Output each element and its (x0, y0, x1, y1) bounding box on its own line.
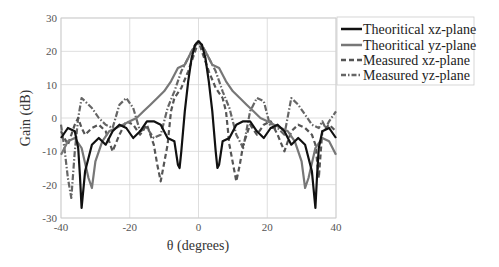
y-tick-label: 10 (46, 79, 58, 91)
x-tick-label: 40 (331, 221, 343, 233)
x-tick-label: 20 (262, 221, 274, 233)
y-tick-label: -10 (42, 145, 57, 157)
y-tick-labels: -30-20-100102030 (42, 12, 57, 224)
y-tick-label: 30 (46, 12, 58, 24)
x-tick-labels: -40-2002040 (54, 221, 342, 233)
legend-label-measured-yz: Measured yz-plane (363, 68, 470, 83)
chart-canvas: -30-20-100102030 -40-2002040 θ (degrees)… (0, 0, 499, 267)
legend-label-theoretical-yz: Theoritical yz-plane (363, 38, 476, 53)
legend: Theoritical xz-plane Theoritical yz-plan… (337, 17, 476, 85)
y-tick-label: 20 (46, 45, 58, 57)
y-tick-label: 0 (52, 112, 58, 124)
grid-lines (61, 18, 336, 218)
x-axis-label: θ (degrees) (167, 238, 230, 254)
y-axis-label: Gain (dB) (18, 89, 34, 146)
legend-label-theoretical-xz: Theoritical xz-plane (363, 22, 476, 37)
x-tick-label: -20 (122, 221, 137, 233)
x-tick-label: -40 (54, 221, 69, 233)
y-tick-label: -20 (42, 179, 57, 191)
legend-label-measured-xz: Measured xz-plane (363, 53, 470, 68)
x-tick-label: 0 (196, 221, 202, 233)
